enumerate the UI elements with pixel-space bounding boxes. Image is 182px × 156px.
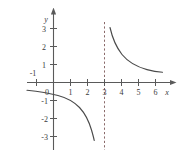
graph-figure: -1 0 1 2 3 4 5 6 3 2 1 -1 -2 -3 x y <box>0 0 182 156</box>
x-tick-label-6: 6 <box>154 88 158 97</box>
curve-left-branch <box>27 90 94 140</box>
coordinate-plane: -1 0 1 2 3 4 5 6 3 2 1 -1 -2 -3 x y <box>0 0 182 156</box>
y-tick-label--2: -2 <box>41 115 48 124</box>
y-tick-label--3: -3 <box>41 133 48 142</box>
x-tick-label-3: 3 <box>103 88 107 97</box>
x-tick-label-2: 2 <box>86 88 90 97</box>
y-tick-label--1: -1 <box>41 97 48 106</box>
x-axis-label: x <box>164 88 169 97</box>
x-tick-label-5: 5 <box>137 88 141 97</box>
x-tick-label--1: -1 <box>30 69 37 78</box>
y-tick-label-2: 2 <box>42 43 46 52</box>
y-axis-label: y <box>43 15 48 24</box>
curve-right-branch <box>110 28 163 73</box>
y-tick-label-1: 1 <box>42 61 46 70</box>
x-tick-label-4: 4 <box>120 88 124 97</box>
x-tick-label-1: 1 <box>69 88 73 97</box>
y-tick-label-3: 3 <box>42 25 46 34</box>
